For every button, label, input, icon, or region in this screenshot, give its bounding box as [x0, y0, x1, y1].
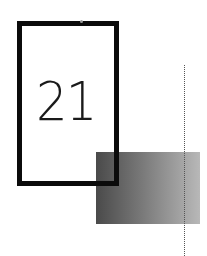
card-number: 21	[36, 72, 91, 132]
dotted-vertical-line	[184, 65, 185, 256]
frame-dot-mark	[80, 20, 83, 23]
